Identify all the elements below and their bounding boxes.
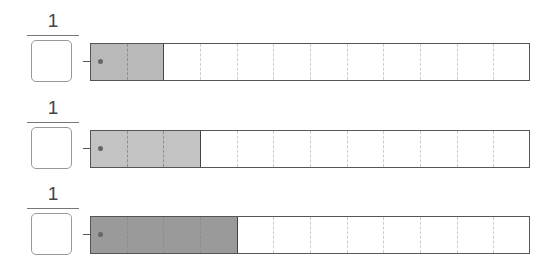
segment-divider	[383, 131, 384, 167]
numerator: 1	[27, 183, 79, 205]
fraction-bar	[90, 216, 530, 254]
segment-divider	[127, 44, 128, 80]
fraction-line	[27, 35, 79, 36]
shaded-portion	[91, 131, 201, 167]
segment-divider	[163, 217, 164, 253]
segment-divider	[457, 44, 458, 80]
segment-divider	[273, 131, 274, 167]
shaded-portion	[91, 217, 238, 253]
fraction-row-1: 1	[0, 10, 557, 100]
segment-divider	[237, 44, 238, 80]
segment-divider	[383, 44, 384, 80]
segment-divider	[457, 131, 458, 167]
segment-divider	[493, 44, 494, 80]
segment-divider	[420, 217, 421, 253]
segment-divider	[420, 44, 421, 80]
segment-divider	[457, 217, 458, 253]
denominator-input-box[interactable]	[31, 213, 72, 255]
segment-divider	[310, 131, 311, 167]
denominator-input-box[interactable]	[31, 40, 72, 82]
segment-divider	[420, 131, 421, 167]
segment-divider	[493, 131, 494, 167]
segment-divider	[237, 131, 238, 167]
segment-divider	[200, 217, 201, 253]
segment-divider	[273, 217, 274, 253]
fraction-row-3: 1	[0, 183, 557, 269]
fraction-line	[27, 122, 79, 123]
segment-divider	[127, 131, 128, 167]
segment-divider	[163, 131, 164, 167]
segment-divider	[273, 44, 274, 80]
segment-divider	[310, 44, 311, 80]
denominator-input-box[interactable]	[31, 127, 72, 169]
numerator: 1	[27, 97, 79, 119]
numerator: 1	[27, 10, 79, 32]
segment-divider	[347, 131, 348, 167]
segment-divider	[127, 217, 128, 253]
segment-divider	[383, 217, 384, 253]
connector-dot	[98, 146, 103, 151]
segment-divider	[347, 44, 348, 80]
fraction-bar	[90, 43, 530, 81]
segment-divider	[347, 217, 348, 253]
fraction-bar	[90, 130, 530, 168]
fraction-line	[27, 208, 79, 209]
segment-divider	[200, 44, 201, 80]
connector-dot	[98, 232, 103, 237]
fraction-row-2: 1	[0, 97, 557, 187]
segment-divider	[493, 217, 494, 253]
segment-divider	[310, 217, 311, 253]
connector-dot	[98, 59, 103, 64]
